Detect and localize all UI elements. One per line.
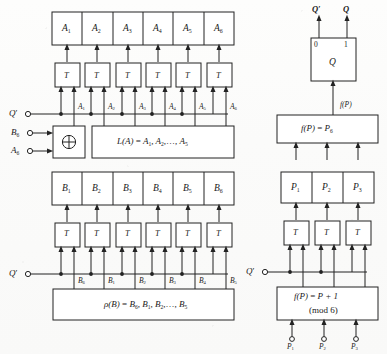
register-a-cell-6: A6: [214, 24, 223, 35]
function-box-rho-text: ρ(B) = B6, B1, B2,…, B5: [104, 300, 187, 310]
register-p-cell-3: P3: [353, 183, 362, 194]
signal-label-a5: A5: [199, 103, 206, 112]
flipflop-p-inputs: [290, 247, 365, 259]
flipflop-row-a: [55, 63, 232, 87]
signal-label-b6: B6: [78, 277, 85, 286]
q-flipflop-outputs: [319, 18, 347, 38]
register-a-cell-3: A3: [123, 24, 132, 35]
input-label-p2: P2: [319, 343, 326, 352]
q-flipflop-label: Q: [329, 58, 336, 68]
flipflop-a-3-label: T: [125, 70, 130, 80]
function-box-fp-lower-line2: (mod 6): [309, 306, 338, 315]
input-label-p1: P1: [287, 343, 294, 352]
flipflop-a-2-label: T: [94, 70, 99, 80]
flipflop-a-5-label: T: [185, 70, 190, 80]
flipflop-a-1-label: T: [64, 70, 69, 80]
register-b-cell-6: B6: [214, 184, 223, 195]
flipflop-p-2-label: T: [324, 227, 329, 237]
flipflop-p-3-label: T: [355, 227, 360, 237]
signal-label-b1: B1: [108, 277, 115, 286]
q-prime-bus-a: [25, 111, 228, 116]
register-b-cell-3: B3: [123, 184, 132, 195]
signal-label-a6: A6: [230, 103, 237, 112]
terminal-q-prime-b[interactable]: Q′: [9, 269, 17, 278]
q-prime-bus-p: [262, 269, 367, 274]
flipflop-p-1-label: T: [293, 227, 298, 237]
signal-label-a4: A4: [169, 103, 176, 112]
output-label-q: Q: [343, 5, 349, 14]
register-a-cell-5: A5: [183, 24, 192, 35]
flipflop-b-2-label: T: [94, 228, 99, 238]
register-b-cells: [52, 172, 234, 205]
register-p-cell-1: P1: [291, 183, 300, 194]
flipflop-b-inputs: [61, 249, 226, 261]
feedback-label-fp: f(P): [340, 101, 352, 109]
function-box-fp-upper-text: f(P) = P6: [301, 124, 333, 134]
signal-label-b4: B4: [199, 277, 206, 286]
signal-label-a2: A2: [108, 103, 115, 112]
flipflop-a-inputs: [61, 89, 226, 101]
function-box-fp-lower-line1: f(P) = P + 1: [294, 292, 338, 301]
terminal-q-prime-p[interactable]: Q′: [246, 267, 254, 276]
flipflop-b-5-label: T: [185, 228, 190, 238]
register-b-cell-5: B5: [183, 184, 192, 195]
register-b-cell-2: B2: [92, 184, 101, 195]
q-prime-taps-p: [290, 259, 352, 272]
xor-input-wires: [27, 130, 50, 153]
terminal-b6[interactable]: B6: [11, 128, 19, 138]
flipflop-b-3-label: T: [125, 228, 130, 238]
signal-label-a3: A3: [139, 103, 146, 112]
signal-label-b2: B2: [139, 277, 146, 286]
register-b-input-arrows: [67, 207, 219, 222]
register-a-cell-4: A4: [153, 24, 162, 35]
flipflop-b-6-label: T: [216, 228, 221, 238]
p-register-to-fp-arrows: [296, 145, 358, 160]
terminal-q-prime-a[interactable]: Q′: [9, 109, 17, 118]
register-a-cell-2: A2: [92, 24, 101, 35]
p-input-arrows: [290, 322, 359, 341]
flipflop-a-4-label: T: [155, 70, 160, 80]
register-a-input-arrows: [67, 47, 219, 62]
signal-label-b5: B5: [230, 277, 237, 286]
register-p-input-arrows: [296, 205, 358, 220]
flipflop-b-1-label: T: [64, 228, 69, 238]
flipflop-b-4-label: T: [155, 228, 160, 238]
register-a-cell-1: A1: [62, 24, 71, 35]
register-p-cell-2: P2: [322, 183, 331, 194]
q-terminal-0-label: 0: [314, 41, 318, 49]
q-terminal-1-label: 1: [344, 41, 348, 49]
flipflop-a-6-label: T: [216, 70, 221, 80]
xor-gate: [53, 126, 85, 158]
register-b-cell-4: B4: [153, 184, 162, 195]
q-prime-bus-b: [25, 271, 228, 276]
signal-label-b3: B3: [169, 277, 176, 286]
signal-label-a1: A1: [78, 103, 85, 112]
function-box-la-text: L(A) = A1, A2,…, A5: [117, 137, 188, 147]
register-b-cell-1: B1: [62, 184, 71, 195]
output-label-q-prime: Q′: [312, 5, 321, 14]
data-lines-p: [303, 259, 365, 288]
q-prime-taps-b: [61, 261, 213, 274]
flipflop-row-b: [55, 223, 232, 247]
input-label-p3: P3: [351, 343, 358, 352]
register-a-cells: [52, 12, 234, 45]
terminal-a6[interactable]: A6: [11, 146, 19, 156]
